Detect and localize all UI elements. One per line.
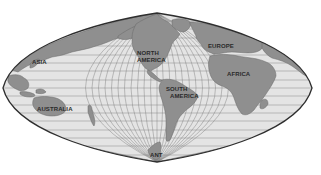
label-europe: EUROPE [208,43,234,49]
label-south-america-line1: SOUTH [166,86,188,92]
label-africa: AFRICA [227,71,251,77]
label-north-america-line1: NORTH [137,50,159,56]
label-south-america-line2: AMERICA [170,93,199,99]
world-map: ASIA NORTH AMERICA EUROPE AFRICA SOUTH A… [0,0,321,175]
label-north-america-line2: AMERICA [137,57,166,63]
label-asia: ASIA [32,59,47,65]
label-antarctica: ANT [150,152,163,158]
label-australia: AUSTRALIA [37,106,73,112]
